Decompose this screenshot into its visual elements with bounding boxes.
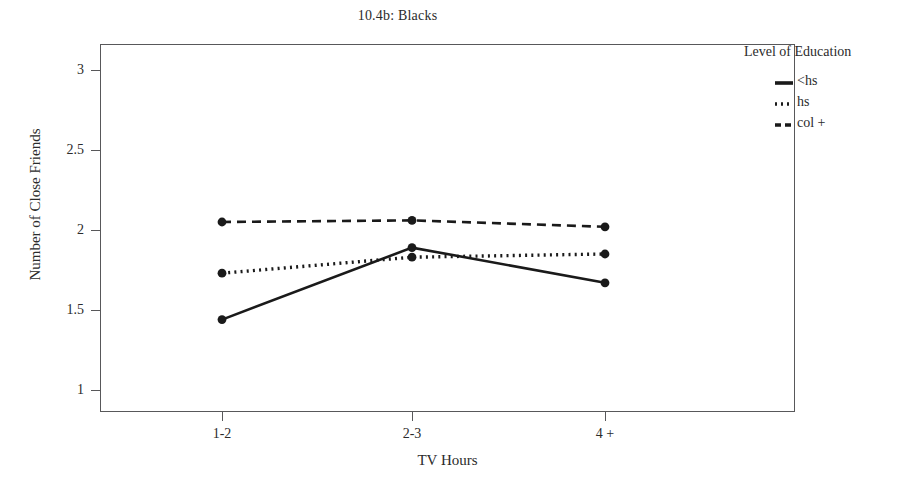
y-axis-tick-mark (91, 230, 100, 231)
y-axis-tick-label: 2 (77, 220, 84, 240)
y-axis-tick-label: 2.5 (67, 140, 85, 160)
legend-item-label: hs (797, 94, 809, 110)
data-point (601, 278, 610, 287)
y-axis-tick: 2.5 (0, 150, 100, 151)
data-point (218, 218, 227, 227)
y-axis-tick: 1.5 (0, 310, 100, 311)
legend-item-label: col + (797, 115, 826, 131)
y-axis-tick: 2 (0, 230, 100, 231)
x-axis-tick-mark (222, 412, 223, 421)
y-axis-tick-mark (91, 390, 100, 391)
x-axis-tick-label: 2-3 (362, 426, 462, 442)
data-point (218, 315, 227, 324)
y-axis-tick: 1 (0, 390, 100, 391)
legend-item[interactable]: col + (744, 112, 918, 133)
legend-item[interactable]: hs (744, 91, 918, 112)
x-axis-tick-label: 1-2 (172, 426, 272, 442)
x-axis-tick-label: 4 + (555, 426, 655, 442)
data-point (408, 243, 417, 252)
plot-series-canvas (100, 44, 795, 412)
y-axis-tick-label: 1.5 (67, 300, 85, 320)
x-axis-tick-mark (605, 412, 606, 421)
y-axis-tick: 3 (0, 70, 100, 71)
legend: Level of Education <hshscol + (744, 44, 918, 133)
legend-item[interactable]: <hs (744, 70, 918, 91)
legend-item-label: <hs (797, 73, 817, 89)
legend-items: <hshscol + (744, 70, 918, 133)
y-axis-tick-label: 1 (77, 380, 84, 400)
data-point (601, 222, 610, 231)
data-point (218, 269, 227, 278)
chart-title: 10.4b: Blacks (0, 8, 795, 24)
legend-line-icon (774, 96, 794, 108)
data-point (408, 216, 417, 225)
data-point (601, 250, 610, 259)
x-axis-tick-mark (412, 412, 413, 421)
legend-line-icon (774, 117, 794, 129)
legend-line-icon (774, 75, 794, 87)
y-axis-tick-mark (91, 310, 100, 311)
chart-figure: 10.4b: Blacks Number of Close Friends 32… (0, 0, 918, 491)
x-axis-title: TV Hours (100, 452, 795, 469)
legend-title: Level of Education (744, 44, 918, 60)
y-axis-tick-mark (91, 70, 100, 71)
y-axis-tick-mark (91, 150, 100, 151)
data-point (408, 253, 417, 262)
y-axis-tick-label: 3 (77, 60, 84, 80)
